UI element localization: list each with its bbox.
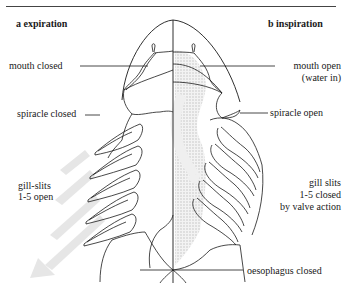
label-gill-slits-open-range: 1-5 open [18, 191, 53, 202]
label-oesophagus-closed: oesophagus closed [247, 265, 322, 276]
label-gill-slits-open: gill-slits [18, 180, 51, 191]
panel-title-expiration: a expiration [16, 18, 67, 29]
body-left [100, 90, 173, 282]
label-gill-slits-closed-range: 1-5 closed [300, 189, 341, 200]
panel-title-inspiration: b inspiration [268, 18, 323, 29]
label-water-in: (water in) [302, 72, 341, 83]
label-mouth-open: mouth open [294, 60, 342, 71]
mouth-left-closed [124, 44, 173, 90]
label-spiracle-open: spiracle open [270, 107, 323, 118]
water-flow-arrows-left [30, 150, 105, 278]
label-spiracle-closed: spiracle closed [17, 108, 76, 119]
label-mouth-closed: mouth closed [9, 60, 63, 71]
label-valve-action: by valve action [280, 201, 341, 212]
fish-head-diagram [0, 0, 347, 293]
label-gill-slits-closed: gill slits [309, 177, 341, 188]
